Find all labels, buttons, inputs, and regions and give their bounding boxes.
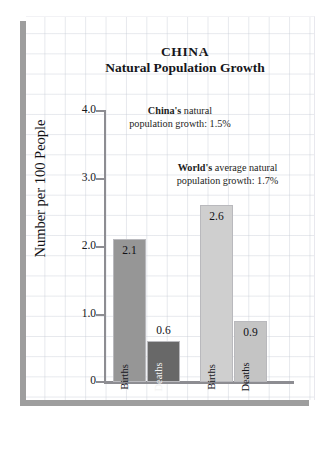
annotation-world-line2: population growth: 1.7%	[140, 174, 315, 187]
annotation-china-rest: natural	[181, 105, 212, 116]
bar-category-china-births: Births	[119, 364, 130, 390]
bar-value-world-births: 2.6	[201, 210, 232, 222]
bar-china-deaths[interactable]: Deaths	[147, 341, 180, 382]
y-tick-2	[96, 246, 105, 248]
y-tick-0	[96, 381, 105, 383]
bar-category-world-deaths: Deaths	[240, 362, 251, 391]
y-tick-label-1: 1.0	[56, 307, 96, 319]
bar-world-deaths[interactable]: 0.9 Deaths	[234, 321, 267, 382]
y-tick-1	[96, 314, 105, 316]
annotation-world-rest: average natural	[212, 162, 277, 173]
bar-value-world-deaths: 0.9	[235, 326, 266, 338]
bar-value-china-deaths: 0.6	[147, 324, 180, 336]
chart-title-line2: Natural Population Growth	[60, 60, 310, 76]
bar-china-births[interactable]: 2.1 Births	[113, 239, 146, 382]
chart-title: CHINA Natural Population Growth	[60, 44, 310, 76]
annotation-china: China's natural population growth: 1.5%	[100, 104, 260, 130]
y-tick-label-0: 0	[56, 374, 96, 386]
y-tick-label-4: 4.0	[56, 103, 96, 115]
annotation-world: World's average natural population growt…	[140, 161, 315, 187]
annotation-world-line1: World's average natural	[140, 161, 315, 174]
chart-figure: CHINA Natural Population Growth China's …	[0, 0, 330, 459]
annotation-china-line1: China's natural	[100, 104, 260, 117]
bar-category-china-deaths: Deaths	[153, 362, 164, 391]
y-tick-label-3: 3.0	[56, 171, 96, 183]
y-tick-label-2: 2.0	[56, 239, 96, 251]
chart-title-line1: CHINA	[60, 44, 310, 60]
annotation-china-line2: population growth: 1.5%	[100, 117, 260, 130]
bar-value-china-births: 2.1	[114, 244, 145, 256]
y-axis-title: Number per 100 People	[32, 104, 49, 274]
annotation-china-bold: China's	[148, 105, 181, 116]
y-tick-4	[96, 110, 105, 112]
bar-category-world-births: Births	[206, 364, 217, 390]
annotation-world-bold: World's	[178, 162, 213, 173]
y-tick-3	[96, 178, 105, 180]
bar-world-births[interactable]: 2.6 Births	[200, 205, 233, 382]
